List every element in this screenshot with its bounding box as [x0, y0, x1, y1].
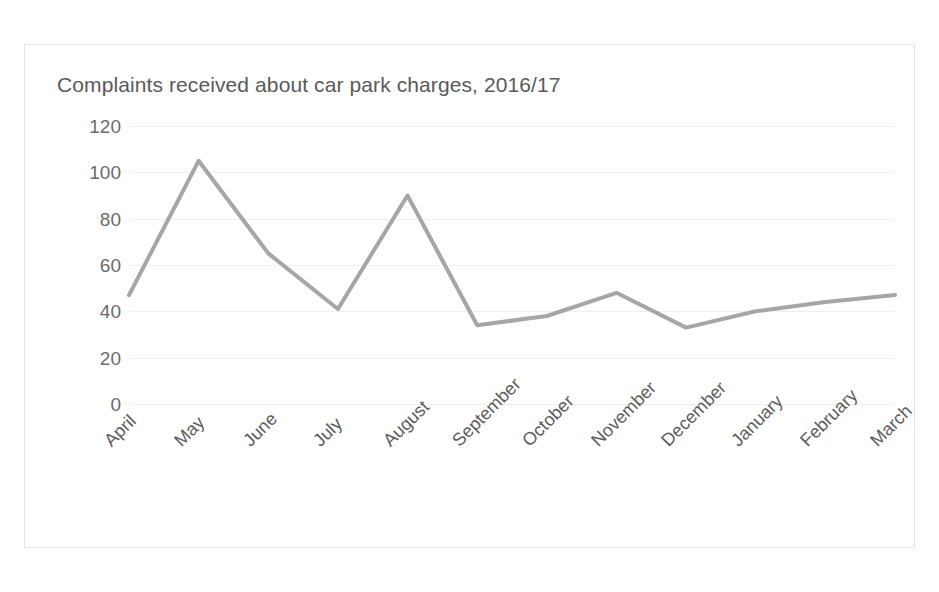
x-axis-tick-labels: AprilMayJuneJulyAugustSeptemberOctoberNo…: [25, 45, 916, 549]
x-tick-label: December: [658, 378, 729, 449]
x-tick-label: March: [867, 402, 915, 450]
chart-page: Complaints received about car park charg…: [0, 0, 939, 592]
x-tick-label: October: [519, 392, 577, 450]
x-tick-label: April: [101, 412, 139, 450]
x-tick-label: September: [449, 375, 524, 450]
x-tick-label: July: [310, 414, 345, 449]
x-tick-label: May: [171, 413, 208, 450]
chart-frame: Complaints received about car park charg…: [24, 44, 915, 548]
x-tick-label: August: [380, 397, 432, 449]
x-tick-label: June: [240, 409, 280, 449]
x-tick-label: January: [728, 392, 786, 450]
x-tick-label: November: [588, 378, 659, 449]
x-tick-label: February: [797, 386, 861, 450]
plot-area: 020406080100120 AprilMayJuneJulyAugustSe…: [25, 45, 916, 549]
